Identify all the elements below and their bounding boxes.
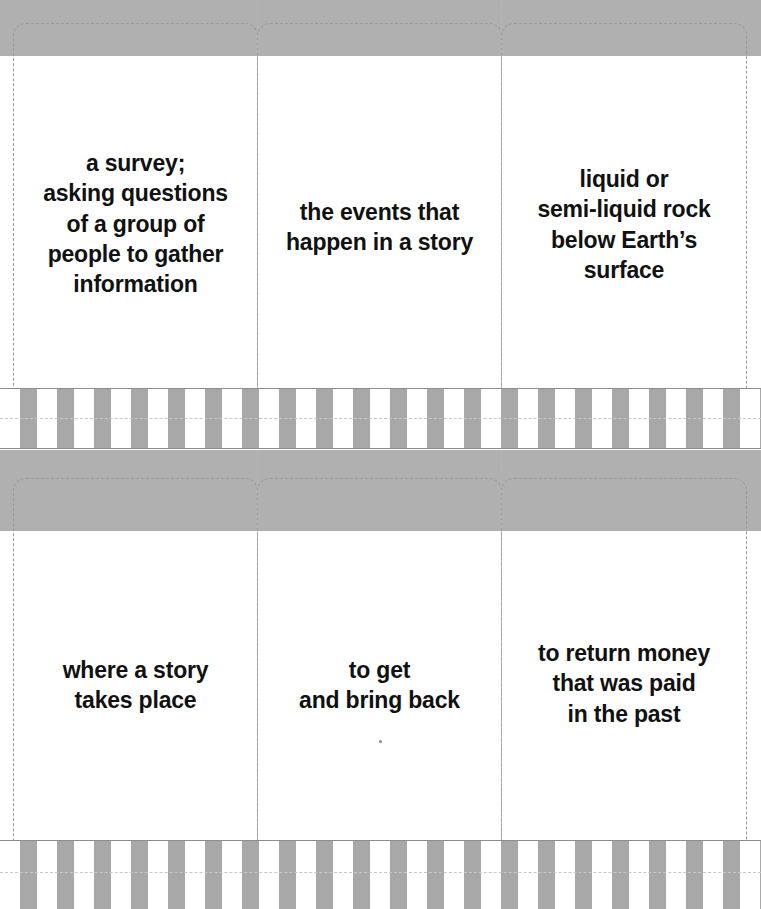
perforation-strip-bottom (0, 840, 761, 909)
card-definition-5: to get and bring back (257, 655, 502, 716)
flashcard-sheet: a survey; asking questions of a group of… (0, 0, 761, 909)
card-definition-4: where a story takes place (13, 655, 258, 716)
perforation-strip-top (0, 388, 761, 449)
card-definition-3: liquid or semi-liquid rock below Earth’s… (501, 164, 747, 285)
card-definition-6: to return money that was paid in the pas… (501, 638, 747, 729)
sheet-bottom-header-band (0, 450, 761, 531)
sheet-top-header-band (0, 0, 761, 56)
scan-speck-artifact (379, 740, 382, 743)
card-definition-1: a survey; asking questions of a group of… (13, 148, 258, 300)
card-definition-2: the events that happen in a story (257, 197, 502, 258)
